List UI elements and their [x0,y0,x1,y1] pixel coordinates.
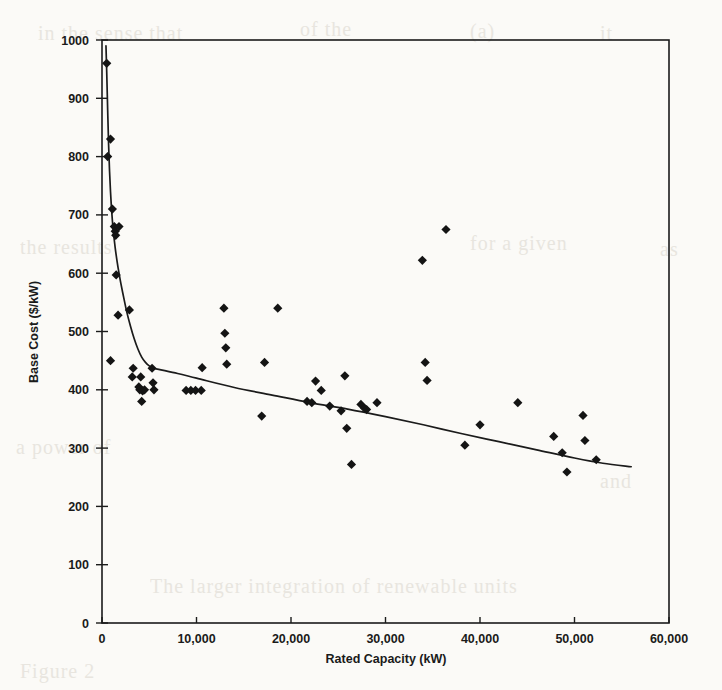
data-point-marker [580,436,589,445]
data-point-marker [103,152,112,161]
fit-curve [106,46,631,467]
data-point-marker [149,385,158,394]
x-axis-title: Rated Capacity (kW) [326,652,447,666]
data-point-marker [113,311,122,320]
y-tick-label: 800 [68,150,89,164]
data-point-marker [221,343,230,352]
y-tick-label: 200 [68,500,89,514]
x-tick-label: 20,000 [272,632,310,646]
y-axis-tick-labels: 01002003004005006007008009001000 [61,34,89,631]
x-axis-tick-labels: 010,00020,00030,00040,00050,00060,000 [99,632,689,646]
data-point-marker [441,225,450,234]
data-point-marker [273,304,282,313]
data-point-marker [347,460,356,469]
x-tick-label: 60,000 [650,632,688,646]
data-point-marker [198,363,207,372]
data-point-marker [372,398,381,407]
data-point-marker [460,441,469,450]
y-axis-title: Base Cost ($/kW) [27,281,41,383]
y-tick-label: 900 [68,92,89,106]
data-point-marker [421,358,430,367]
data-point-marker [317,386,326,395]
data-point-marker [340,371,349,380]
data-point-marker [562,467,571,476]
y-tick-label: 0 [82,617,89,631]
y-tick-label: 1000 [61,34,89,48]
x-tick-label: 0 [99,632,106,646]
scatter-chart-figure: in the sense thatof the(a)itthe resultsf… [0,0,722,690]
data-point-marker [106,135,115,144]
y-tick-label: 600 [68,267,89,281]
data-point-marker [219,304,228,313]
data-point-marker [578,411,587,420]
x-tick-label: 50,000 [555,632,593,646]
data-point-marker [475,420,484,429]
data-point-marker [342,424,351,433]
data-point-marker [222,360,231,369]
data-point-marker [418,256,427,265]
data-point-marker [108,204,117,213]
data-point-marker [102,59,111,68]
data-point-marker [136,372,145,381]
data-point-marker [148,378,157,387]
data-point-marker [137,397,146,406]
chart-svg: 010,00020,00030,00040,00050,00060,000 01… [0,0,722,690]
data-point-marker [257,411,266,420]
data-point-marker [260,358,269,367]
data-point-marker [549,432,558,441]
data-point-marker [422,376,431,385]
data-point-marker [129,364,138,373]
data-point-marker [325,402,334,411]
fit-curve-path [106,46,631,467]
data-point-marker [106,356,115,365]
x-axis-ticks [102,617,669,623]
y-tick-label: 100 [68,558,89,572]
data-point-marker [128,372,137,381]
data-point-markers [102,59,601,477]
x-tick-label: 30,000 [366,632,404,646]
data-point-marker [311,376,320,385]
y-tick-label: 300 [68,442,89,456]
x-tick-label: 10,000 [177,632,215,646]
plot-frame [102,40,669,623]
y-tick-label: 500 [68,325,89,339]
data-point-marker [513,398,522,407]
y-tick-label: 400 [68,383,89,397]
y-tick-label: 700 [68,208,89,222]
data-point-marker [197,386,206,395]
data-point-marker [220,329,229,338]
x-tick-label: 40,000 [461,632,499,646]
